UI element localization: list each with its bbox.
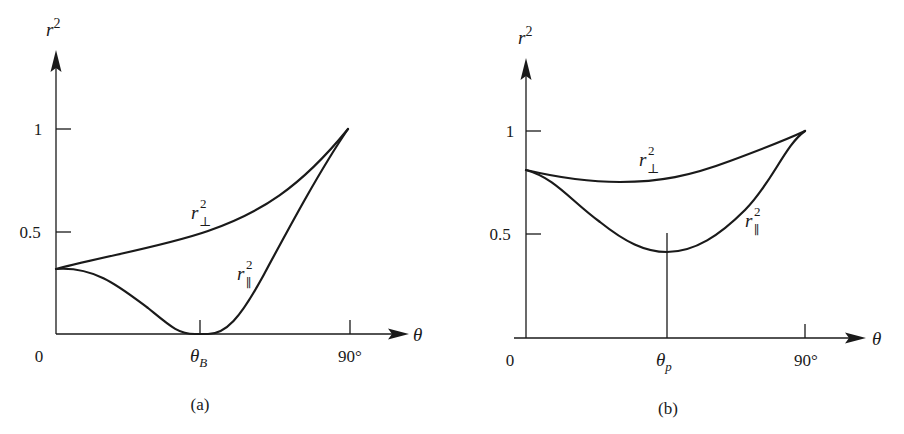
y-tick-label-1-b: 1 bbox=[506, 122, 515, 141]
curve-r-perp-b bbox=[526, 131, 805, 182]
curve-r-par-a bbox=[56, 129, 348, 334]
panel-a: r2 1 0.5 0 θB 90° θ (a) r2⊥ r2∥ bbox=[19, 16, 422, 414]
figure: r2 1 0.5 0 θB 90° θ (a) r2⊥ r2∥ r2 1 0.5… bbox=[0, 0, 904, 434]
caption-a: (a) bbox=[191, 395, 210, 414]
panel-b: r2 1 0.5 0 θp 90° θ (b) r2⊥ r2∥ bbox=[489, 24, 881, 418]
label-r-perp-a: r2⊥ bbox=[191, 196, 211, 229]
label-r-par-a: r2∥ bbox=[237, 257, 253, 290]
x-tick-label-thetaB: θB bbox=[190, 345, 207, 370]
label-r-perp-b: r2⊥ bbox=[639, 143, 659, 176]
origin-label-a: 0 bbox=[35, 347, 44, 366]
y-tick-label-1-a: 1 bbox=[34, 120, 43, 139]
y-axis-label-a: r2 bbox=[46, 16, 60, 40]
y-tick-label-half-a: 0.5 bbox=[19, 223, 40, 242]
x-tick-label-90-a: 90° bbox=[338, 347, 362, 366]
y-axis-label-b: r2 bbox=[518, 24, 532, 48]
origin-label-b: 0 bbox=[506, 351, 515, 370]
y-tick-label-half-b: 0.5 bbox=[489, 225, 510, 244]
x-axis-label-a: θ bbox=[413, 324, 422, 345]
x-tick-label-90-b: 90° bbox=[794, 351, 818, 370]
x-tick-label-thetaP: θp bbox=[656, 349, 672, 374]
x-axis-label-b: θ bbox=[872, 328, 881, 349]
caption-b: (b) bbox=[658, 399, 678, 418]
